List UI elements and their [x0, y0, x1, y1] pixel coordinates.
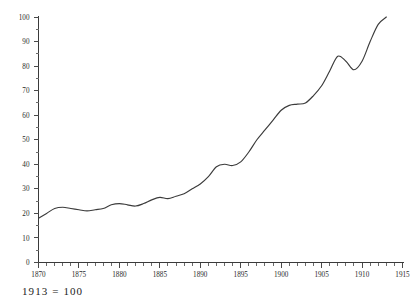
x-tick-label: 1905: [314, 271, 329, 279]
x-tick-label: 1875: [72, 271, 87, 279]
x-tick-label: 1890: [193, 271, 208, 279]
y-tick-label: 100: [19, 14, 30, 22]
line-chart: 0102030405060708090100 18701875188018851…: [0, 0, 416, 306]
y-tick-label: 10: [22, 235, 30, 243]
x-tick-label: 1900: [274, 271, 289, 279]
y-tick-label: 20: [22, 210, 30, 218]
x-tick-label: 1895: [234, 271, 249, 279]
y-tick-label: 30: [22, 185, 30, 193]
y-tick-label: 40: [22, 161, 30, 169]
y-tick-label: 70: [22, 87, 30, 95]
x-tick-label: 1880: [112, 271, 127, 279]
y-tick-label: 80: [22, 63, 30, 71]
x-tick-label: 1885: [153, 271, 168, 279]
chart-page: 0102030405060708090100 18701875188018851…: [0, 0, 416, 306]
x-axis: 1870187518801885189018951900190519101915: [31, 263, 410, 279]
data-line-index: [39, 17, 387, 218]
y-axis: 0102030405060708090100: [19, 14, 39, 268]
x-tick-label: 1915: [395, 271, 410, 279]
x-tick-label: 1870: [31, 271, 46, 279]
y-tick-label: 0: [26, 259, 30, 267]
y-tick-label: 90: [22, 38, 30, 46]
y-tick-label: 50: [22, 136, 30, 144]
x-tick-label: 1910: [355, 271, 370, 279]
y-tick-label: 60: [22, 112, 30, 120]
data-series-group: [39, 17, 387, 218]
chart-caption: 1913 = 100: [22, 285, 83, 297]
